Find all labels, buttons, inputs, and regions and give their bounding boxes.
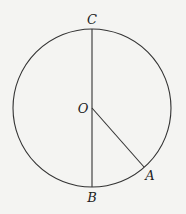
label-A: A [144,168,154,183]
radius-OA [92,108,144,167]
label-B: B [86,190,97,205]
label-C: C [87,12,97,27]
label-O: O [78,101,89,116]
circle-diagram: C O B A [0,0,186,214]
